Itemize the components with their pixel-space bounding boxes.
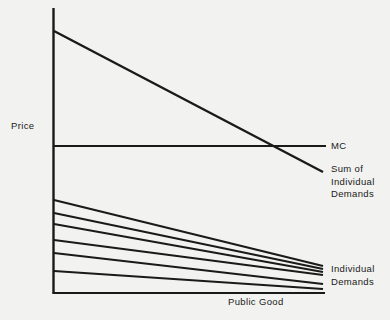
individual-demand-line-2 (54, 213, 323, 269)
y-axis-label: Price (11, 120, 34, 133)
sum-of-individual-demands-label: Sum of Individual Demands (331, 163, 375, 201)
individual-demand-line-1 (54, 200, 323, 266)
sum-of-individual-demands-line (54, 31, 323, 172)
x-axis-label: Public Good (228, 296, 284, 309)
individual-demand-line-3 (54, 224, 323, 272)
public-good-diagram: Price Public Good MC Sum of Individual D… (0, 0, 390, 320)
mc-curve-label: MC (331, 140, 346, 153)
individual-demands-label: Individual Demands (331, 263, 375, 288)
